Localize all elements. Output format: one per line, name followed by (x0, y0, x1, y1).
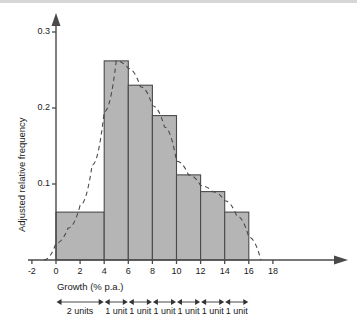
histogram-bar (177, 175, 201, 260)
y-axis-tick-label: 0.3 (22, 26, 50, 36)
histogram-bar (56, 212, 104, 260)
unit-span-arrow-left (177, 299, 182, 305)
x-axis-title: Growth (% p.a.) (0, 281, 180, 292)
x-axis-arrowhead (334, 256, 348, 265)
chart-figure: 0.30.20.1-2024681012141618Growth (% p.a.… (0, 0, 357, 328)
unit-span-arrow-right (219, 299, 224, 305)
unit-span-arrow-left (201, 299, 206, 305)
unit-span-arrow-right (123, 299, 128, 305)
histogram-bar (104, 61, 128, 260)
unit-span-arrow-left (129, 299, 134, 305)
unit-span-arrow-left (57, 299, 62, 305)
x-axis-tick-label: 18 (259, 266, 287, 276)
unit-span-label: 1 unit (215, 306, 259, 316)
histogram-plot (0, 0, 357, 328)
unit-span-arrow-left (105, 299, 110, 305)
histogram-bar (225, 212, 249, 260)
unit-span-arrow-left (153, 299, 158, 305)
unit-span-arrow-right (147, 299, 152, 305)
unit-span-arrow-left (225, 299, 230, 305)
unit-span-arrow-right (99, 299, 104, 305)
unit-span-arrow-right (243, 299, 248, 305)
y-axis-arrowhead (52, 13, 61, 26)
histogram-bar (152, 116, 176, 260)
unit-span-arrow-right (171, 299, 176, 305)
y-axis-title: Adjusted relative frequency (16, 117, 27, 232)
histogram-bar (128, 85, 152, 260)
unit-span-arrow-right (195, 299, 200, 305)
histogram-bar (201, 192, 225, 260)
y-axis-tick-label: 0.2 (22, 102, 50, 112)
